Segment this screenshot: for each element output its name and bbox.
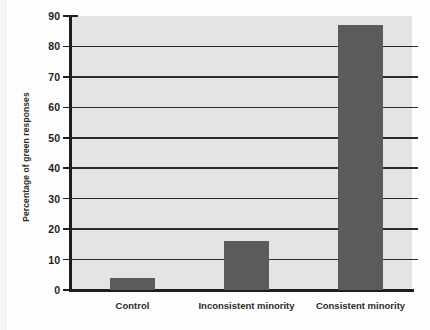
bar-inconsistent-minority: [224, 241, 269, 290]
x-axis-label-inconsistent-minority: Inconsistent minority: [198, 300, 294, 311]
page-scan-edge-line: [5, 0, 6, 330]
y-axis-tick-label-50: 50: [20, 132, 60, 144]
y-axis-tick-label-80: 80: [20, 40, 60, 52]
y-axis-tick-label-90: 90: [20, 10, 60, 22]
x-axis-label-control: Control: [116, 300, 150, 311]
x-axis-label-consistent-minority: Consistent minority: [316, 300, 405, 311]
y-axis-tick-label-40: 40: [20, 162, 60, 174]
y-axis-tick-label-0: 0: [20, 284, 60, 296]
y-axis-tick-label-30: 30: [20, 193, 60, 205]
y-axis-line: [69, 15, 72, 292]
y-axis-tick-label-70: 70: [20, 71, 60, 83]
y-axis-tick-label-10: 10: [20, 254, 60, 266]
y-axis-top-cap: [69, 15, 78, 17]
bar-chart-figure: Percentage of green responses 0102030405…: [0, 0, 430, 330]
bar-control: [110, 278, 155, 290]
bar-consistent-minority: [338, 25, 383, 290]
y-axis-tick-label-20: 20: [20, 223, 60, 235]
y-axis-tick-label-60: 60: [20, 101, 60, 113]
